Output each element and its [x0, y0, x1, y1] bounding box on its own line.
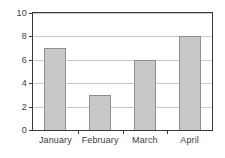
x-axis-label-april: April [180, 135, 199, 146]
y-axis-label-8: 8 [22, 32, 27, 41]
y-axis-tick-4 [29, 83, 33, 84]
bar-march [134, 60, 156, 130]
y-axis-label-0: 0 [22, 126, 27, 135]
x-axis-tick-3 [167, 130, 168, 134]
bar-april [179, 36, 201, 130]
y-axis-tick-6 [29, 60, 33, 61]
x-axis-label-february: February [82, 135, 119, 146]
bar-january [44, 48, 66, 130]
y-axis-tick-0 [29, 130, 33, 131]
y-axis-label-6: 6 [22, 55, 27, 64]
y-axis-label-2: 2 [22, 102, 27, 111]
y-axis-tick-2 [29, 107, 33, 108]
x-axis-label-march: March [132, 135, 158, 146]
y-axis-label-10: 10 [17, 9, 27, 18]
bar-chart: 0246810 JanuaryFebruaryMarchApril [0, 0, 225, 158]
x-axis-label-january: January [39, 135, 72, 146]
x-axis-tick-1 [78, 130, 79, 134]
plot-area: 0246810 [32, 12, 213, 131]
y-axis-tick-10 [29, 13, 33, 14]
y-axis-label-4: 4 [22, 79, 27, 88]
y-axis-tick-8 [29, 36, 33, 37]
gridline-10 [33, 13, 212, 14]
x-axis-label-group: JanuaryFebruaryMarchApril [32, 135, 213, 149]
bar-february [89, 95, 111, 130]
x-axis-tick-2 [123, 130, 124, 134]
